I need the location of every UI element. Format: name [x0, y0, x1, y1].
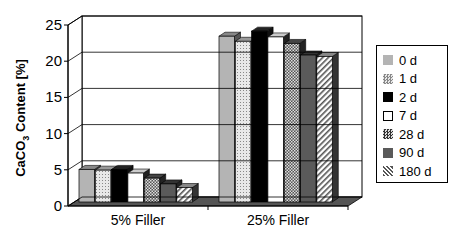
- legend-swatch-icon: [383, 55, 393, 65]
- legend-swatch-icon: [383, 111, 393, 121]
- y-tick-label: 5: [54, 161, 62, 178]
- legend-swatch-icon: [383, 148, 393, 158]
- legend-swatch-icon: [383, 74, 393, 84]
- legend-swatch-icon: [383, 129, 393, 139]
- bar: [177, 184, 199, 202]
- legend-label: 90 d: [399, 145, 424, 160]
- x-category-label: 5% Filler: [111, 212, 166, 228]
- bar: [317, 52, 339, 202]
- y-tick-label: 25: [45, 16, 62, 33]
- y-tick-label: 15: [45, 88, 62, 105]
- legend-item: 180 d: [383, 162, 432, 180]
- legend-item: 90 d: [383, 144, 424, 162]
- y-axis-label: CaCO3 Content [%]: [13, 59, 31, 177]
- y-tick-label: 20: [45, 52, 62, 69]
- legend: 0 d1 d2 d7 d28 d90 d180 d: [376, 45, 448, 183]
- legend-item: 7 d: [383, 107, 417, 125]
- y-tick-label: 0: [54, 197, 62, 214]
- legend-label: 2 d: [399, 90, 417, 105]
- legend-swatch-icon: [383, 166, 393, 176]
- y-tick-label: 10: [45, 125, 62, 142]
- legend-label: 1 d: [399, 71, 417, 86]
- x-category-label: 25% Filler: [247, 212, 310, 228]
- legend-item: 0 d: [383, 51, 417, 69]
- legend-item: 1 d: [383, 70, 417, 88]
- legend-label: 7 d: [399, 108, 417, 123]
- legend-item: 28 d: [383, 125, 424, 143]
- legend-label: 180 d: [399, 164, 432, 179]
- legend-item: 2 d: [383, 88, 417, 106]
- legend-label: 28 d: [399, 127, 424, 142]
- legend-swatch-icon: [383, 92, 393, 102]
- legend-label: 0 d: [399, 53, 417, 68]
